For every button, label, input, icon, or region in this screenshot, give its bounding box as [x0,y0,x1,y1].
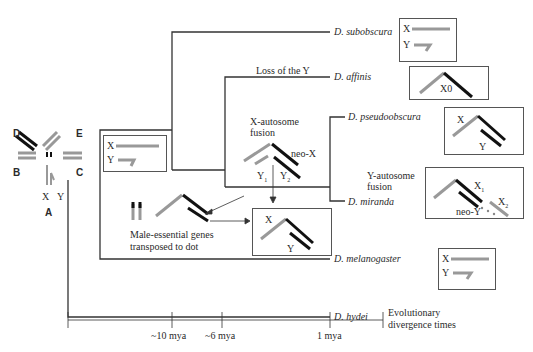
tick-6mya: ~6 mya [205,330,235,341]
karyotype-box-miranda: X1 X2 neo-Y [425,167,524,219]
muller-label-d: D [13,128,20,139]
species-pseudoobscura: D. pseudoobscura [348,111,421,122]
karyotype-box-pseudoobscura: X Y [444,107,524,155]
x-autosome-label-2: fusion [250,127,275,138]
tick-1mya: 1 mya [317,330,342,341]
species-miranda: D. miranda [348,196,394,207]
muller-label-a: A [45,207,52,218]
intermediate-chromosome [133,195,208,221]
species-melanogaster: D. melanogaster [334,253,401,264]
tick-10mya: ~10 mya [151,330,186,341]
karyotype-box-affinis: X0 [409,66,489,100]
timeline-label-1: Evolutionary [388,307,440,318]
y-autosome-label-1: Y-autosome [367,170,415,181]
timeline-label-2: divergence times [388,319,456,330]
muller-label-c: C [76,167,83,178]
y-autosome-label-2: fusion [367,181,392,192]
karyotype-box-neo: X Y [252,208,332,256]
male-genes-label-2: transposed to dot [130,241,198,252]
species-subobscura: D. subobscura [334,26,392,37]
karyotype-box-subobscura: X Y [399,18,457,62]
loss-of-y-label: Loss of the Y [256,65,310,76]
muller-label-e: E [76,128,83,139]
male-genes-label-1: Male-essential genes [130,229,214,240]
karyotype-box-melanogaster: X Y [438,248,496,290]
muller-label-b: B [13,167,20,178]
species-affinis: D. affinis [334,71,371,82]
muller-label-x: X [42,191,49,202]
species-hydei: D. hydei [334,311,368,322]
muller-elements [16,132,82,185]
neo-x-label: neo-X [291,148,316,159]
x-autosome-label-1: X-autosome [250,116,299,127]
muller-label-y: Y [57,191,64,202]
y2-label: Y2 [280,170,290,186]
y1-label: Y1 [257,170,267,186]
karyotype-box-ancestral: X Y [103,135,167,172]
